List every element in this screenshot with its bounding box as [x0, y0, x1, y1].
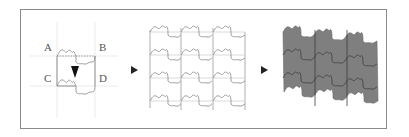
right-arrow-icon	[131, 66, 138, 74]
step1-tile	[30, 22, 118, 118]
step2-grid	[150, 26, 245, 110]
diagram-canvas	[0, 0, 409, 137]
step3-tessellation	[283, 26, 378, 106]
down-arrow-icon	[71, 66, 79, 78]
right-arrow-icon	[261, 66, 268, 74]
